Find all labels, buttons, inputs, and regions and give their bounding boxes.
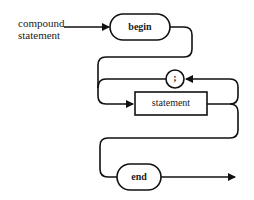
entry-label: compound statement — [18, 17, 64, 41]
statement-nonterminal: statement — [135, 97, 207, 108]
entry-label-line2: statement — [18, 29, 64, 41]
end-keyword: end — [117, 171, 161, 182]
entry-label-line1: compound — [18, 17, 64, 29]
semicolon-separator: ; — [166, 72, 184, 83]
begin-keyword: begin — [110, 21, 170, 32]
